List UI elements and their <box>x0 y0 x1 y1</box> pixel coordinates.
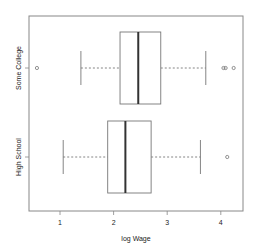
outlier-point <box>226 155 229 158</box>
box-group-high-school <box>63 121 229 193</box>
box-group-some-college <box>35 32 235 104</box>
iqr-box <box>108 121 151 193</box>
iqr-box <box>120 32 161 104</box>
x-tick-label: 2 <box>112 219 116 226</box>
boxplot-chart: 1234 High SchoolSome College log Wage <box>0 0 257 252</box>
outlier-point <box>232 66 235 69</box>
y-tick-label: High School <box>15 138 23 176</box>
y-axis: High SchoolSome College <box>15 46 29 176</box>
boxes-layer <box>35 32 235 193</box>
outlier-point <box>224 66 227 69</box>
x-tick-label: 3 <box>165 219 169 226</box>
y-tick-label: Some College <box>15 46 23 90</box>
outlier-point <box>35 66 38 69</box>
x-tick-label: 1 <box>58 219 62 226</box>
x-axis-label: log Wage <box>121 235 150 243</box>
x-axis: 1234 <box>58 211 223 226</box>
x-tick-label: 4 <box>219 219 223 226</box>
